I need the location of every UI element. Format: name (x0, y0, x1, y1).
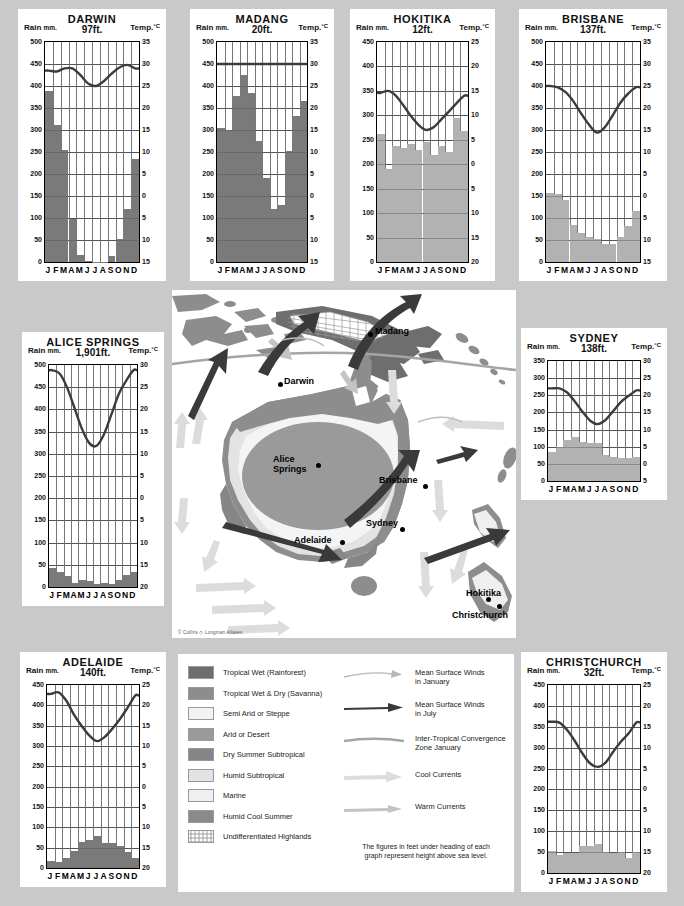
plot-area-adelaide (46, 684, 140, 869)
temp-tick: 20 (142, 104, 162, 111)
temperature-line (47, 685, 139, 868)
month-label: J (585, 484, 593, 494)
rain-tick: 200 (22, 170, 42, 177)
rain-tick: 450 (354, 38, 374, 45)
legend-swatch (188, 687, 214, 700)
temp-axis-label: Temp.°C (459, 23, 489, 32)
month-label: J (92, 871, 100, 881)
legend-symbol-label: Mean Surface Windsin July (415, 700, 485, 718)
city-marker-adelaide (340, 540, 345, 545)
month-label: N (121, 590, 128, 600)
rain-tick: 350 (194, 104, 214, 111)
legend-swatch (188, 707, 214, 720)
month-label: J (44, 265, 52, 275)
rain-tick: 0 (194, 258, 214, 265)
month-label: M (231, 265, 239, 275)
month-label: N (623, 265, 631, 275)
temp-tick: 30 (643, 357, 663, 364)
legend-symbol-icon (344, 734, 406, 752)
legend-symbol-icon (344, 770, 406, 788)
rain-tick: 150 (22, 192, 42, 199)
month-label: O (114, 265, 122, 275)
month-label: F (553, 265, 561, 275)
temp-axis-label: Temp.°C (130, 666, 160, 675)
rain-tick: 150 (194, 192, 214, 199)
temp-axis-label: Temp.°C (298, 23, 328, 32)
rain-axis-label: Rain mm. (527, 342, 560, 351)
legend-row-climate: Dry Summer Subtropical (188, 748, 305, 761)
bold-arrow-icon (344, 700, 404, 714)
city-marker-darwin (278, 382, 283, 387)
rain-tick: 400 (22, 82, 42, 89)
rain-tick: 100 (194, 214, 214, 221)
temp-tick: 15 (140, 428, 160, 435)
legend-label: Humid Subtropical (223, 771, 284, 780)
rain-tick: 0 (525, 477, 545, 484)
month-label: J (216, 265, 224, 275)
legend-swatch (188, 789, 214, 802)
rain-tick: 350 (354, 87, 374, 94)
legend-row-symbol: Cool Currents (344, 770, 461, 788)
rain-tick: 50 (22, 236, 42, 243)
temp-axis-label: Temp.°C (130, 23, 160, 32)
temp-tick: 30 (142, 60, 162, 67)
rain-tick: 500 (523, 38, 543, 45)
city-label-alice-springs: AliceSprings (273, 454, 307, 474)
month-axis: JFMAMJJASOND (545, 265, 639, 275)
temp-tick: 10 (310, 148, 330, 155)
month-label: M (60, 265, 68, 275)
month-label: M (562, 876, 570, 886)
city-label-madang: Madang (375, 326, 409, 336)
legend-label: Marine (223, 791, 246, 800)
climate-graph-brisbane: BRISBANE137ft.Rain mm.Temp.°C05010015020… (519, 9, 667, 281)
legend-swatch (188, 810, 214, 823)
temp-tick: 15 (471, 87, 491, 94)
temp-tick: 15 (643, 408, 663, 415)
month-label: N (624, 484, 632, 494)
rain-tick: 0 (354, 258, 374, 265)
temp-tick: 15 (142, 126, 162, 133)
temp-tick: 25 (142, 82, 162, 89)
rain-tick: 200 (24, 783, 44, 790)
temp-axis-label: Temp.°C (128, 346, 158, 355)
plot-area-christchurch (547, 684, 641, 874)
plot-area-brisbane (545, 41, 641, 263)
rain-tick: 400 (354, 62, 374, 69)
month-label: S (608, 484, 616, 494)
month-label: O (615, 265, 623, 275)
climate-map[interactable]: © Collins ◇ Longman Atlases (172, 290, 516, 638)
month-label: N (452, 265, 460, 275)
rain-tick: 0 (24, 864, 44, 871)
temp-tick: 20 (471, 62, 491, 69)
temp-tick: 15 (310, 126, 330, 133)
rain-tick: 250 (26, 472, 46, 479)
rain-tick: 350 (525, 723, 545, 730)
legend-row-climate: Humid Cool Summer (188, 810, 293, 823)
rain-tick: 250 (22, 148, 42, 155)
rain-tick: 450 (26, 383, 46, 390)
copyright-text: © Collins ◇ Longman Atlases (178, 630, 243, 635)
rain-axis-label: Rain mm. (26, 666, 59, 675)
legend-row-climate: Humid Subtropical (188, 769, 284, 782)
month-label: A (239, 265, 247, 275)
temp-tick: 5 (310, 170, 330, 177)
month-label: S (107, 590, 114, 600)
rain-tick: 300 (525, 374, 545, 381)
month-label: A (601, 876, 609, 886)
rain-tick: 50 (525, 848, 545, 855)
rain-tick: 400 (26, 405, 46, 412)
rain-tick: 50 (523, 236, 543, 243)
month-label: D (631, 484, 639, 494)
temp-tick: 25 (310, 82, 330, 89)
legend-label: Dry Summer Subtropical (223, 750, 305, 759)
legend-row-symbol: Mean Surface Windsin January (344, 668, 485, 686)
month-label: N (123, 871, 131, 881)
city-marker-sydney (400, 527, 405, 532)
month-label: F (384, 265, 392, 275)
month-label: A (601, 484, 609, 494)
temp-tick: 10 (140, 539, 160, 546)
month-label: D (129, 590, 136, 600)
month-label: S (107, 265, 115, 275)
temp-tick: 10 (471, 209, 491, 216)
rain-tick: 300 (26, 450, 46, 457)
